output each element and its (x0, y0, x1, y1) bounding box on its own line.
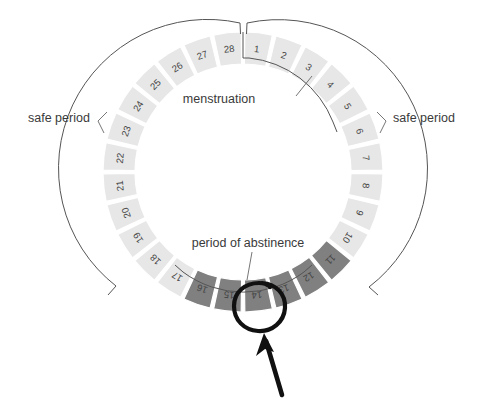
day-number: 28 (223, 43, 235, 55)
safe-period-label-right: safe period (393, 111, 455, 125)
safe-period-label-left: safe period (28, 111, 90, 125)
day-number-labels: 1234567891011121314151617181920212223242… (114, 43, 372, 302)
safe-period-leader-left (98, 112, 107, 133)
top-gap-tick-right (247, 23, 248, 34)
top-gap-tick-left (240, 23, 241, 34)
day-segment-ring (103, 32, 383, 312)
cycle-diagram-page: 1234567891011121314151617181920212223242… (0, 0, 482, 405)
menstrual-cycle-wheel: 1234567891011121314151617181920212223242… (0, 0, 482, 405)
safe-period-leader-right (377, 112, 386, 133)
period-of-abstinence-label: period of abstinence (192, 236, 305, 250)
menstruation-label: menstruation (183, 92, 255, 106)
period-of-abstinence-leader-line (247, 252, 252, 280)
day-number: 22 (114, 152, 126, 164)
day-number: 21 (114, 180, 126, 192)
